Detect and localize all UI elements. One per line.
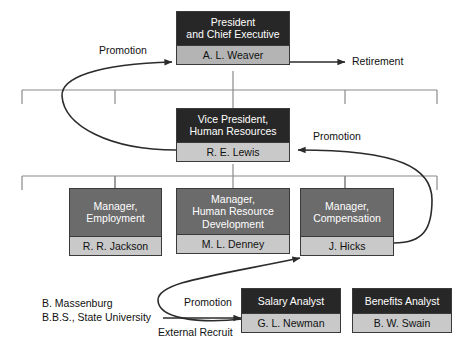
node-benefits-analyst[interactable]: Benefits Analyst B. W. Swain xyxy=(352,288,452,333)
node-manager-compensation-title: Manager, Compensation xyxy=(301,189,393,236)
node-benefits-analyst-title: Benefits Analyst xyxy=(353,289,451,313)
node-manager-employment-title-line-2: Employment xyxy=(72,212,159,224)
node-manager-human-resource-development-name: M. L. Denney xyxy=(177,234,289,253)
node-vice-president-hr-title-line-1: Vice President, xyxy=(179,113,287,125)
node-manager-compensation[interactable]: Manager, Compensation J. Hicks xyxy=(300,188,394,256)
node-manager-human-resource-development[interactable]: Manager, Human Resource Development M. L… xyxy=(176,188,290,254)
node-president-title-line-1: President xyxy=(179,16,287,28)
edge-label-promotion-to-manager: Promotion xyxy=(184,296,232,308)
edge-label-promotion-to-president: Promotion xyxy=(99,44,147,56)
node-vice-president-hr[interactable]: Vice President, Human Resources R. E. Le… xyxy=(176,108,290,162)
node-president-title: President and Chief Executive xyxy=(177,12,289,45)
node-salary-analyst[interactable]: Salary Analyst G. L. Newman xyxy=(241,288,341,333)
node-manager-human-resource-development-title: Manager, Human Resource Development xyxy=(177,189,289,234)
node-salary-analyst-title: Salary Analyst xyxy=(242,289,340,313)
external-candidate-credential: B.B.S., State University xyxy=(42,310,151,324)
node-salary-analyst-title-line-1: Salary Analyst xyxy=(244,295,338,307)
node-manager-compensation-name: J. Hicks xyxy=(301,236,393,255)
org-chart-diagram: President and Chief Executive A. L. Weav… xyxy=(0,0,465,355)
node-president-title-line-2: and Chief Executive xyxy=(179,28,287,40)
node-manager-employment-title: Manager, Employment xyxy=(70,189,161,236)
edge-label-promotion-to-vice-president: Promotion xyxy=(313,130,361,142)
external-candidate-name: B. Massenburg xyxy=(42,296,151,310)
node-president-name: A. L. Weaver xyxy=(177,45,289,64)
node-salary-analyst-name: G. L. Newman xyxy=(242,313,340,332)
node-benefits-analyst-name: B. W. Swain xyxy=(353,313,451,332)
node-vice-president-hr-title: Vice President, Human Resources xyxy=(177,109,289,142)
node-manager-employment[interactable]: Manager, Employment R. R. Jackson xyxy=(69,188,162,256)
node-manager-hrd-title-line-3: Development xyxy=(179,218,287,230)
node-vice-president-hr-name: R. E. Lewis xyxy=(177,142,289,161)
node-president[interactable]: President and Chief Executive A. L. Weav… xyxy=(176,11,290,65)
external-candidate-note: B. Massenburg B.B.S., State University xyxy=(42,296,151,324)
node-manager-compensation-title-line-2: Compensation xyxy=(303,212,391,224)
node-manager-employment-name: R. R. Jackson xyxy=(70,236,161,255)
edge-label-external-recruit: External Recruit xyxy=(158,326,233,338)
edge-label-retirement: Retirement xyxy=(352,55,403,67)
node-benefits-analyst-title-line-1: Benefits Analyst xyxy=(355,295,449,307)
node-manager-hrd-title-line-2: Human Resource xyxy=(179,205,287,217)
node-vice-president-hr-title-line-2: Human Resources xyxy=(179,125,287,137)
node-manager-hrd-title-line-1: Manager, xyxy=(179,193,287,205)
node-manager-compensation-title-line-1: Manager, xyxy=(303,200,391,212)
node-manager-employment-title-line-1: Manager, xyxy=(72,200,159,212)
